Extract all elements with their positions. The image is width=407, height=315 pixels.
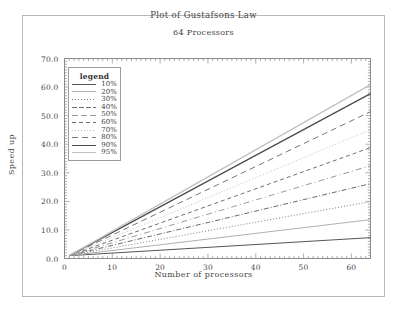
x-tick-label: 30 xyxy=(198,263,218,272)
series-line xyxy=(69,202,370,256)
y-tick-label: 60.0 xyxy=(27,83,59,92)
legend-line-sample xyxy=(72,107,96,108)
y-tick-label: 40.0 xyxy=(27,140,59,149)
legend-line-sample xyxy=(72,91,96,93)
legend-label: 95% xyxy=(96,149,117,157)
legend-entries: 10%20%30%40%50%60%70%80%90%95% xyxy=(69,81,120,157)
x-tick-label: 50 xyxy=(294,263,314,272)
x-tick-label: 0 xyxy=(55,263,75,272)
legend-line-sample xyxy=(72,145,96,147)
series-line xyxy=(69,166,370,256)
legend-line-sample xyxy=(72,137,96,138)
y-tick-label: 50.0 xyxy=(27,112,59,121)
y-tick-label: 70.0 xyxy=(27,55,59,64)
x-tick-label: 60 xyxy=(341,263,361,272)
legend-line-sample xyxy=(72,84,96,86)
x-tick-label: 40 xyxy=(246,263,266,272)
series-line xyxy=(69,148,370,256)
legend-line-sample xyxy=(72,99,96,100)
x-tick-label: 20 xyxy=(150,263,170,272)
legend: legend 10%20%30%40%50%60%70%80%90%95% xyxy=(68,67,121,161)
series-line xyxy=(69,220,370,256)
legend-line-sample xyxy=(72,152,96,154)
legend-item: 95% xyxy=(69,149,120,157)
legend-line-sample xyxy=(72,122,96,123)
legend-line-sample xyxy=(72,130,96,131)
y-tick-label: 10.0 xyxy=(27,226,59,235)
series-line xyxy=(69,238,370,256)
y-tick-label: 20.0 xyxy=(27,197,59,206)
x-tick-label: 10 xyxy=(102,263,122,272)
y-tick-label: 30.0 xyxy=(27,169,59,178)
series-line xyxy=(69,184,370,256)
legend-line-sample xyxy=(72,115,96,116)
